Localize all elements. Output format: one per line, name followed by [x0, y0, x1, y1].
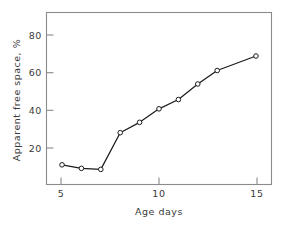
y-axis-title: Apparent free space, %: [11, 39, 22, 161]
y-axis-ticks: [47, 35, 54, 148]
y-axis-tick-labels: 20 40 60 80: [29, 30, 42, 154]
y-tick-label-80: 80: [29, 30, 42, 41]
y-tick-label-40: 40: [29, 105, 42, 116]
data-point-0: [60, 163, 65, 168]
x-tick-label-5: 5: [58, 188, 65, 199]
y-tick-label-20: 20: [29, 143, 42, 154]
data-point-6: [176, 97, 181, 102]
x-axis-ticks: [61, 178, 257, 185]
data-point-9: [254, 54, 259, 59]
x-tick-label-10: 10: [152, 188, 165, 199]
data-point-4: [137, 120, 142, 125]
x-axis-title: Age days: [135, 206, 183, 217]
data-series-markers: [60, 54, 259, 172]
plot-frame: [47, 13, 272, 185]
data-point-3: [118, 130, 123, 135]
x-axis-tick-labels: 5 10 15: [58, 188, 264, 199]
data-series-line: [62, 56, 256, 169]
x-tick-label-15: 15: [250, 188, 263, 199]
data-point-2: [99, 167, 104, 172]
chart-figure: 20 40 60 80 5 10 15 Age days Apparent fr…: [0, 0, 288, 235]
data-point-8: [215, 68, 220, 73]
data-point-1: [79, 166, 84, 171]
line-chart: 20 40 60 80 5 10 15 Age days Apparent fr…: [0, 0, 288, 235]
y-tick-label-60: 60: [29, 67, 42, 78]
data-point-5: [157, 107, 162, 112]
data-point-7: [195, 82, 200, 87]
